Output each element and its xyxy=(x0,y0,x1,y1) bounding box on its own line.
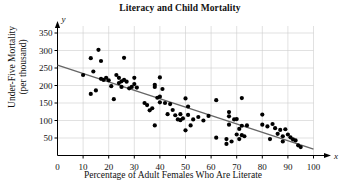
svg-text:x: x xyxy=(333,151,338,161)
svg-text:200: 200 xyxy=(39,81,53,91)
svg-text:350: 350 xyxy=(39,28,53,38)
x-axis-label: Percentage of Adult Females Who Are Lite… xyxy=(28,170,318,180)
svg-text:250: 250 xyxy=(39,63,53,73)
chart-figure: Literacy and Child Mortality Under-Five … xyxy=(0,0,341,189)
axis-ticks xyxy=(55,33,314,159)
svg-text:y: y xyxy=(61,14,66,24)
svg-text:50: 50 xyxy=(44,133,54,143)
axis-tick-labels: 5010015020025030035001020304050607080901… xyxy=(39,28,321,171)
svg-text:300: 300 xyxy=(39,46,53,56)
svg-text:150: 150 xyxy=(39,98,53,108)
scatter-plot: 5010015020025030035001020304050607080901… xyxy=(0,0,341,189)
svg-text:100: 100 xyxy=(39,116,53,126)
data-points xyxy=(81,48,303,150)
